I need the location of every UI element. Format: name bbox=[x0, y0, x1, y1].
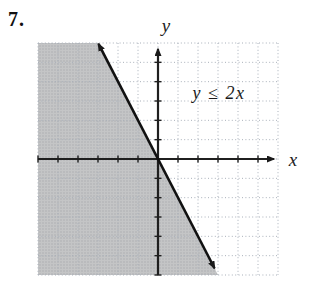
figure-container: 7. y x y ≤ 2x bbox=[0, 0, 310, 291]
y-axis-label: y bbox=[160, 15, 171, 36]
inequality-label: y ≤ 2x bbox=[191, 83, 246, 103]
inequality-graph: y x y ≤ 2x bbox=[0, 0, 310, 291]
x-axis-label: x bbox=[288, 149, 298, 170]
